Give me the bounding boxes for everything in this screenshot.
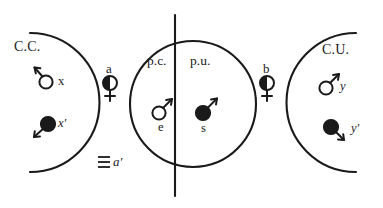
marker-label-x-prime: x′ (58, 117, 66, 130)
triple-bar-icon (98, 157, 110, 167)
right-region-label: C.U. (322, 43, 349, 57)
venus-half-filled-icon-a (103, 76, 117, 101)
marker-y (319, 74, 339, 95)
diagram-lineart (0, 0, 383, 208)
boundary-tag-a-prime: a′ (113, 155, 122, 168)
diagram-figure: C.C. C.U. p.c. p.u. x x′ e s y y′ a b a′ (0, 0, 383, 208)
marker-s (196, 99, 217, 121)
marker-label-y-prime: y′ (351, 122, 359, 135)
center-right-half-label: p.u. (190, 54, 210, 68)
marker-label-e: e (158, 121, 164, 134)
venus-half-filled-icon-b (260, 76, 274, 101)
boundary-tag-b: b (263, 62, 270, 75)
marker-label-y: y (340, 80, 346, 93)
left-region-label: C.C. (14, 40, 40, 54)
center-left-half-label: p.c. (147, 54, 167, 68)
marker-label-s: s (201, 122, 206, 135)
boundary-tag-a: a (106, 62, 112, 75)
marker-y-prime (324, 120, 344, 140)
marker-x-prime (34, 117, 55, 137)
marker-e (152, 99, 172, 120)
marker-label-x: x (58, 75, 64, 88)
marker-x (35, 68, 53, 89)
